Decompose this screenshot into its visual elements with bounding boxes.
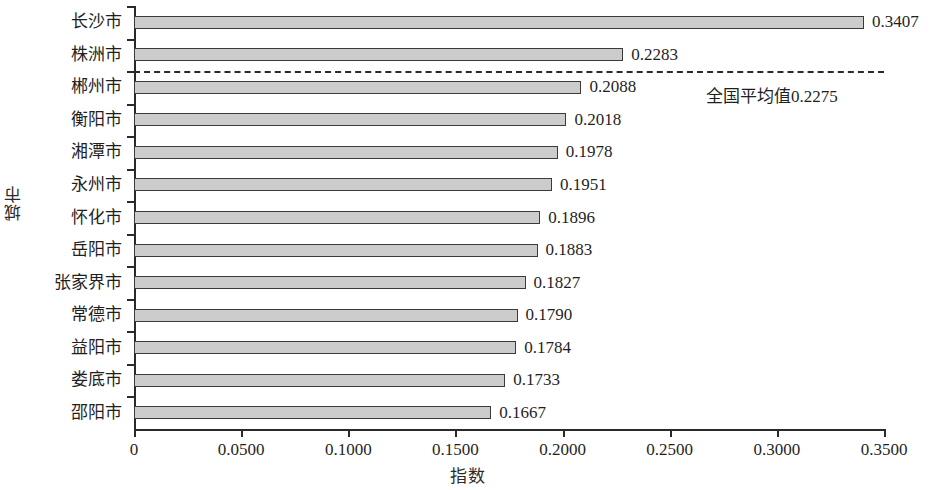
y-axis-tick: [127, 136, 135, 138]
y-axis-tick-label: 邵阳市: [71, 400, 122, 426]
bar: [134, 341, 516, 354]
bar: [134, 178, 552, 191]
bar: [134, 276, 526, 289]
y-axis-tick: [127, 169, 135, 171]
bar: [134, 48, 623, 61]
national-average-line: [134, 71, 884, 73]
y-axis-tick-label: 株洲市: [71, 42, 122, 68]
x-axis-tick: [241, 429, 243, 437]
bar: [134, 406, 491, 419]
bar-value-label: 0.1733: [513, 371, 560, 388]
x-axis-tick-label: 0.3500: [839, 440, 929, 460]
x-axis-title: 指数: [0, 462, 936, 487]
x-axis-tick-label: 0.2000: [518, 440, 608, 460]
bar: [134, 244, 538, 257]
y-axis-tick-label: 娄底市: [71, 367, 122, 393]
y-axis-tick: [127, 331, 135, 333]
y-axis-tick-label: 岳阳市: [71, 237, 122, 263]
bar: [134, 16, 864, 29]
bar: [134, 211, 540, 224]
y-axis-tick-label: 湘潭市: [71, 139, 122, 165]
y-axis-tick-label: 郴州市: [71, 74, 122, 100]
y-axis-tick-label: 衡阳市: [71, 107, 122, 133]
bar-value-label: 0.2018: [574, 111, 621, 128]
x-axis-tick: [455, 429, 457, 437]
bar-value-label: 0.3407: [872, 13, 919, 30]
plot-area: 0.34070.22830.20880.20180.19780.19510.18…: [134, 6, 884, 429]
bar-value-label: 0.1896: [548, 209, 595, 226]
bar-value-label: 0.1784: [524, 339, 571, 356]
y-axis-tick: [127, 39, 135, 41]
y-axis-tick: [127, 299, 135, 301]
national-average-label: 全国平均值0.2275: [706, 82, 838, 107]
bar: [134, 146, 558, 159]
y-axis-tick: [127, 6, 135, 8]
bar-chart: 城市 长沙市株洲市郴州市衡阳市湘潭市永州市怀化市岳阳市张家界市常德市益阳市娄底市…: [0, 0, 936, 490]
x-axis-tick-label: 0.2500: [625, 440, 715, 460]
x-axis-tick: [348, 429, 350, 437]
bar-value-label: 0.1790: [526, 306, 573, 323]
y-axis-tick-label: 常德市: [71, 302, 122, 328]
x-axis-tick: [134, 429, 136, 437]
y-axis-category-labels: 长沙市株洲市郴州市衡阳市湘潭市永州市怀化市岳阳市张家界市常德市益阳市娄底市邵阳市: [0, 0, 128, 429]
y-axis-tick: [127, 234, 135, 236]
y-axis-tick: [127, 201, 135, 203]
y-axis-tick: [127, 364, 135, 366]
bar: [134, 113, 566, 126]
bar-value-label: 0.2088: [589, 78, 636, 95]
y-axis-tick-label: 永州市: [71, 172, 122, 198]
bar: [134, 374, 505, 387]
bar: [134, 81, 581, 94]
x-axis-tick: [777, 429, 779, 437]
bar-value-label: 0.1951: [560, 176, 607, 193]
x-axis-tick-label: 0.0500: [196, 440, 286, 460]
x-axis-tick-label: 0.1000: [303, 440, 393, 460]
x-axis-tick-label: 0: [89, 440, 179, 460]
bar-value-label: 0.1827: [534, 274, 581, 291]
y-axis-tick-label: 怀化市: [71, 205, 122, 231]
y-axis-tick-label: 益阳市: [71, 335, 122, 361]
x-axis-tick: [884, 429, 886, 437]
y-axis-tick-label: 张家界市: [54, 270, 122, 296]
bar-value-label: 0.1883: [546, 241, 593, 258]
x-axis-tick: [670, 429, 672, 437]
bar: [134, 309, 518, 322]
bar-value-label: 0.1978: [566, 143, 613, 160]
x-axis-line: [134, 429, 886, 431]
y-axis-tick-label: 长沙市: [71, 9, 122, 35]
x-axis-tick-label: 0.1500: [410, 440, 500, 460]
bar-value-label: 0.2283: [631, 46, 678, 63]
x-axis-tick-label: 0.3000: [732, 440, 822, 460]
x-axis-tick: [563, 429, 565, 437]
y-axis-tick: [127, 396, 135, 398]
y-axis-tick: [127, 104, 135, 106]
bar-value-label: 0.1667: [499, 404, 546, 421]
y-axis-tick: [127, 266, 135, 268]
